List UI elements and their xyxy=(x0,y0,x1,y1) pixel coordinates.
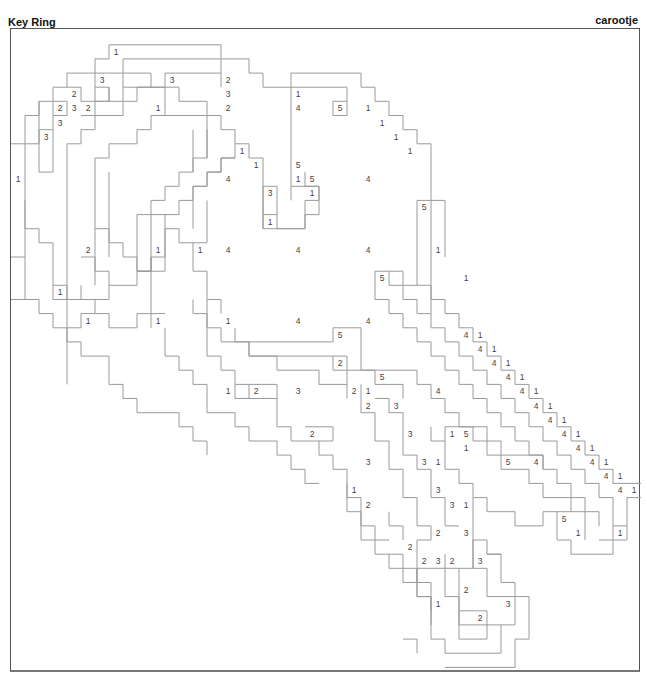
clue-cell[interactable]: 2 xyxy=(361,399,375,413)
clue-cell[interactable]: 4 xyxy=(473,342,487,356)
clue-cell[interactable]: 3 xyxy=(417,455,431,469)
clue-cell[interactable]: 5 xyxy=(375,271,389,285)
clue-cell[interactable]: 2 xyxy=(473,611,487,625)
clue-cell[interactable]: 3 xyxy=(67,101,81,115)
clue-cell[interactable]: 2 xyxy=(249,384,263,398)
clue-cell[interactable]: 4 xyxy=(585,455,599,469)
clue-cell[interactable]: 2 xyxy=(53,101,67,115)
clue-cell[interactable]: 3 xyxy=(431,554,445,568)
clue-cell[interactable]: 3 xyxy=(459,526,473,540)
clue-cell[interactable]: 1 xyxy=(375,116,389,130)
clue-cell[interactable]: 1 xyxy=(193,243,207,257)
clue-cell[interactable]: 4 xyxy=(613,483,627,497)
clue-cell[interactable]: 4 xyxy=(459,328,473,342)
clue-cell[interactable]: 2 xyxy=(445,554,459,568)
clue-cell[interactable]: 2 xyxy=(347,384,361,398)
clue-cell[interactable]: 4 xyxy=(291,243,305,257)
clue-cell[interactable]: 4 xyxy=(487,356,501,370)
clue-cell[interactable]: 3 xyxy=(403,427,417,441)
clue-cell[interactable]: 4 xyxy=(543,413,557,427)
clue-cell[interactable]: 3 xyxy=(263,186,277,200)
clue-cell[interactable]: 4 xyxy=(221,172,235,186)
clue-cell[interactable]: 3 xyxy=(473,554,487,568)
clue-cell[interactable]: 3 xyxy=(431,483,445,497)
clue-cell[interactable]: 1 xyxy=(557,413,571,427)
clue-cell[interactable]: 2 xyxy=(81,243,95,257)
clue-cell[interactable]: 4 xyxy=(361,172,375,186)
clue-cell[interactable]: 4 xyxy=(221,243,235,257)
clue-cell[interactable]: 1 xyxy=(431,597,445,611)
clue-cell[interactable]: 1 xyxy=(459,498,473,512)
clue-cell[interactable]: 1 xyxy=(487,342,501,356)
clue-cell[interactable]: 1 xyxy=(221,314,235,328)
clue-cell[interactable]: 2 xyxy=(431,526,445,540)
clue-cell[interactable]: 4 xyxy=(571,441,585,455)
clue-cell[interactable]: 4 xyxy=(361,243,375,257)
clue-cell[interactable]: 2 xyxy=(403,540,417,554)
clue-cell[interactable]: 4 xyxy=(515,384,529,398)
clue-cell[interactable]: 5 xyxy=(375,370,389,384)
clue-cell[interactable]: 1 xyxy=(571,526,585,540)
clue-cell[interactable]: 1 xyxy=(291,172,305,186)
clue-cell[interactable]: 1 xyxy=(445,427,459,441)
clue-cell[interactable]: 1 xyxy=(459,271,473,285)
clue-cell[interactable]: 1 xyxy=(305,186,319,200)
clue-cell[interactable]: 1 xyxy=(515,370,529,384)
clue-cell[interactable]: 5 xyxy=(417,200,431,214)
clue-cell[interactable]: 1 xyxy=(543,399,557,413)
clue-cell[interactable]: 3 xyxy=(95,73,109,87)
clue-cell[interactable]: 1 xyxy=(249,158,263,172)
clue-cell[interactable]: 4 xyxy=(291,101,305,115)
clue-cell[interactable]: 1 xyxy=(361,101,375,115)
clue-cell[interactable]: 4 xyxy=(599,469,613,483)
clue-cell[interactable]: 4 xyxy=(529,455,543,469)
clue-cell[interactable]: 3 xyxy=(39,130,53,144)
clue-cell[interactable]: 1 xyxy=(263,215,277,229)
clue-cell[interactable]: 4 xyxy=(529,399,543,413)
clue-cell[interactable]: 2 xyxy=(459,582,473,596)
clue-cell[interactable]: 5 xyxy=(557,512,571,526)
clue-cell[interactable]: 1 xyxy=(403,144,417,158)
clue-cell[interactable]: 1 xyxy=(599,455,613,469)
clue-cell[interactable]: 1 xyxy=(361,384,375,398)
clue-cell[interactable]: 2 xyxy=(305,427,319,441)
clue-cell[interactable]: 4 xyxy=(431,384,445,398)
clue-cell[interactable]: 1 xyxy=(151,314,165,328)
clue-cell[interactable]: 1 xyxy=(347,483,361,497)
clue-cell[interactable]: 1 xyxy=(529,384,543,398)
clue-cell[interactable]: 5 xyxy=(333,328,347,342)
clue-cell[interactable]: 2 xyxy=(67,87,81,101)
clue-cell[interactable]: 3 xyxy=(501,597,515,611)
clue-cell[interactable]: 2 xyxy=(81,101,95,115)
clue-cell[interactable]: 1 xyxy=(459,441,473,455)
clue-cell[interactable]: 1 xyxy=(613,469,627,483)
clue-cell[interactable]: 2 xyxy=(221,73,235,87)
clue-cell[interactable]: 1 xyxy=(473,328,487,342)
clue-cell[interactable]: 1 xyxy=(613,526,627,540)
clue-cell[interactable]: 1 xyxy=(221,384,235,398)
clue-cell[interactable]: 2 xyxy=(221,101,235,115)
clue-cell[interactable]: 3 xyxy=(221,87,235,101)
clue-cell[interactable]: 3 xyxy=(389,399,403,413)
clue-cell[interactable]: 1 xyxy=(109,45,123,59)
clue-cell[interactable]: 1 xyxy=(81,314,95,328)
clue-cell[interactable]: 5 xyxy=(333,101,347,115)
clue-cell[interactable]: 1 xyxy=(11,172,25,186)
clue-cell[interactable]: 2 xyxy=(333,356,347,370)
clue-cell[interactable]: 1 xyxy=(431,455,445,469)
clue-cell[interactable]: 4 xyxy=(361,314,375,328)
clue-cell[interactable]: 5 xyxy=(305,172,319,186)
puzzle-grid[interactable]: 1332231232124513131111514154315121144415… xyxy=(0,0,647,677)
clue-cell[interactable]: 1 xyxy=(291,87,305,101)
clue-cell[interactable]: 2 xyxy=(361,498,375,512)
clue-cell[interactable]: 3 xyxy=(53,116,67,130)
clue-cell[interactable]: 1 xyxy=(151,243,165,257)
clue-cell[interactable]: 4 xyxy=(501,370,515,384)
clue-cell[interactable]: 4 xyxy=(291,314,305,328)
clue-cell[interactable]: 1 xyxy=(431,243,445,257)
clue-cell[interactable]: 3 xyxy=(291,384,305,398)
clue-cell[interactable]: 3 xyxy=(445,498,459,512)
clue-cell[interactable]: 4 xyxy=(557,427,571,441)
clue-cell[interactable]: 2 xyxy=(417,554,431,568)
clue-cell[interactable]: 1 xyxy=(501,356,515,370)
